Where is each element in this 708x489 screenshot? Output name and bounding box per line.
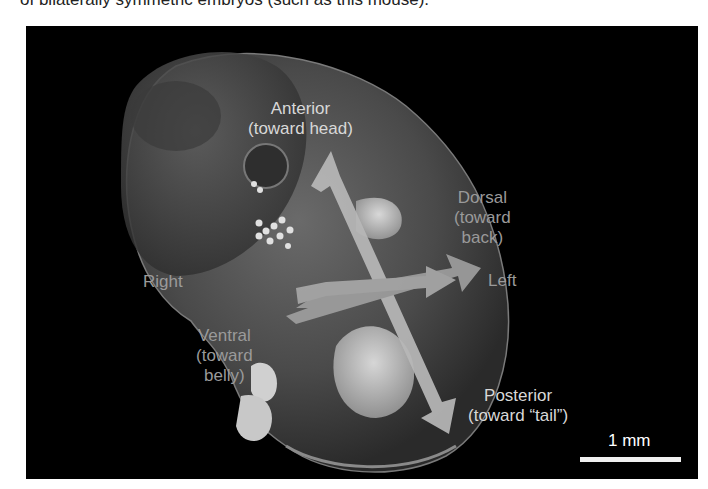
embryo-illustration (26, 26, 698, 479)
caption-text: of bilaterally symmetric embryos (such a… (20, 0, 429, 10)
scale-bar-label: 1 mm (608, 431, 651, 451)
dorsal-label: Dorsal (toward back) (454, 188, 511, 248)
embryo-figure: Anterior (toward head) Dorsal (toward ba… (26, 26, 698, 479)
anterior-label: Anterior (toward head) (248, 99, 353, 139)
ventral-label: Ventral (toward belly) (196, 326, 253, 386)
left-label: Left (488, 271, 516, 291)
posterior-label: Posterior (toward “tail”) (468, 386, 568, 426)
scale-bar (580, 457, 681, 462)
right-label: Right (143, 272, 183, 292)
